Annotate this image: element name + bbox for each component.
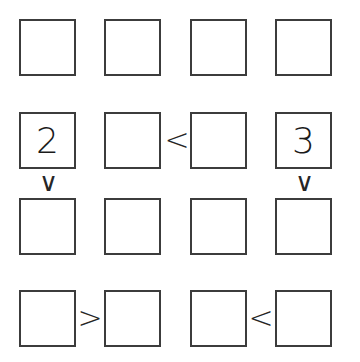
grid-cell-r2c4[interactable]: 3 [275, 112, 332, 169]
grid-cell-r3c2[interactable] [104, 198, 161, 255]
grid-cell-r4c2[interactable] [104, 290, 161, 347]
grid-cell-r1c2[interactable] [104, 19, 161, 76]
grid-cell-r3c1[interactable] [19, 198, 76, 255]
grid-cell-r1c1[interactable] [19, 19, 76, 76]
grid-cell-r1c3[interactable] [190, 19, 247, 76]
inequality-sign-c4-r2r3: ∨ [284, 170, 324, 194]
grid-cell-r2c2[interactable] [104, 112, 161, 169]
grid-cell-r3c4[interactable] [275, 198, 332, 255]
inequality-sign-r4-c1c2: > [76, 298, 104, 338]
grid-cell-r2c3[interactable] [190, 112, 247, 169]
grid-cell-r2c1[interactable]: 2 [19, 112, 76, 169]
puzzle-grid: 2 3 < ∨ ∨ > < [0, 0, 360, 362]
cell-value-r2c4: 3 [292, 123, 315, 159]
cell-value-r2c1: 2 [36, 123, 59, 159]
grid-cell-r4c4[interactable] [275, 290, 332, 347]
inequality-sign-r2-c2c3: < [163, 120, 191, 160]
grid-cell-r4c3[interactable] [190, 290, 247, 347]
inequality-sign-c1-r2r3: ∨ [28, 170, 68, 194]
grid-cell-r1c4[interactable] [275, 19, 332, 76]
grid-cell-r4c1[interactable] [19, 290, 76, 347]
grid-cell-r3c3[interactable] [190, 198, 247, 255]
inequality-sign-r4-c3c4: < [247, 298, 275, 338]
